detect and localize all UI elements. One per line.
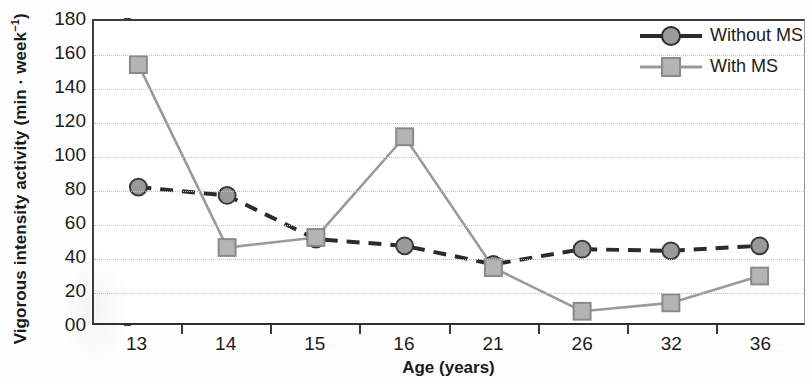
x-axis-tick-mark — [627, 325, 629, 334]
x-axis-tick-label: 14 — [215, 333, 236, 355]
square-marker-icon — [661, 57, 681, 77]
chart-figure: Vigorous intensity activity (min · week−… — [0, 0, 812, 384]
x-axis-tick-label: 26 — [572, 333, 593, 355]
x-axis-tick-mark — [449, 325, 451, 334]
y-axis-tick-label: 60 — [40, 212, 86, 234]
y-axis-tick-label: 180 — [40, 8, 86, 30]
circle-marker-icon — [661, 26, 681, 46]
data-point-marker — [396, 128, 413, 145]
data-point-marker — [662, 242, 679, 259]
x-axis-tick-label: 32 — [661, 333, 682, 355]
y-axis-tick-label: 140 — [40, 76, 86, 98]
data-point-marker — [751, 237, 768, 254]
legend-label-without-ms: Without MS — [710, 25, 803, 46]
data-point-marker — [662, 294, 679, 311]
y-axis-title-tail: ) — [11, 13, 30, 19]
chart-legend: Without MS With MS — [640, 20, 810, 82]
legend-item-without-ms: Without MS — [640, 20, 810, 51]
gridline — [94, 123, 804, 124]
gridline — [94, 293, 804, 294]
y-axis-title-exponent: −1 — [9, 19, 21, 32]
y-axis-tick-label: 100 — [40, 144, 86, 166]
x-axis-tick-mark — [538, 325, 540, 334]
x-axis-tick-label: 15 — [304, 333, 325, 355]
y-axis-title: Vigorous intensity activity (min · week−… — [9, 9, 31, 349]
data-point-marker — [307, 229, 324, 246]
x-axis-tick-label: 21 — [482, 333, 503, 355]
x-axis-title: Age (years) — [92, 358, 805, 378]
gridline — [94, 89, 804, 90]
data-point-marker — [485, 259, 502, 276]
gridline — [94, 259, 804, 260]
y-axis-tick-labels: 0020406080100120140160180 — [36, 0, 86, 384]
y-axis-tick-label: 00 — [40, 314, 86, 336]
x-axis-tick-label: 16 — [393, 333, 414, 355]
y-axis-title-main: Vigorous intensity activity (min · week — [11, 32, 30, 345]
gridline — [94, 157, 804, 158]
x-axis-tick-mark — [181, 325, 183, 334]
legend-label-with-ms: With MS — [710, 56, 778, 77]
gridline — [94, 191, 804, 192]
y-axis-tick-label: 20 — [40, 280, 86, 302]
data-point-marker — [130, 56, 147, 73]
x-axis-tick-label: 36 — [750, 333, 771, 355]
gridline — [94, 225, 804, 226]
y-axis-tick-label: 40 — [40, 246, 86, 268]
data-point-marker — [396, 237, 413, 254]
x-axis-tick-mark — [359, 325, 361, 334]
legend-item-with-ms: With MS — [640, 51, 810, 82]
legend-swatch-without-ms — [640, 26, 702, 46]
data-point-marker — [130, 179, 147, 196]
y-axis-tick-label: 80 — [40, 178, 86, 200]
x-axis-tick-label: 13 — [126, 333, 147, 355]
y-axis-tick-label: 160 — [40, 42, 86, 64]
data-point-marker — [574, 241, 591, 258]
x-axis-tick-mark — [270, 325, 272, 334]
x-axis-tick-mark — [716, 325, 718, 334]
data-point-marker — [219, 187, 236, 204]
legend-swatch-with-ms — [640, 57, 702, 77]
y-axis-tick-label: 120 — [40, 110, 86, 132]
data-point-marker — [751, 268, 768, 285]
data-point-marker — [574, 303, 591, 320]
data-point-marker — [219, 239, 236, 256]
